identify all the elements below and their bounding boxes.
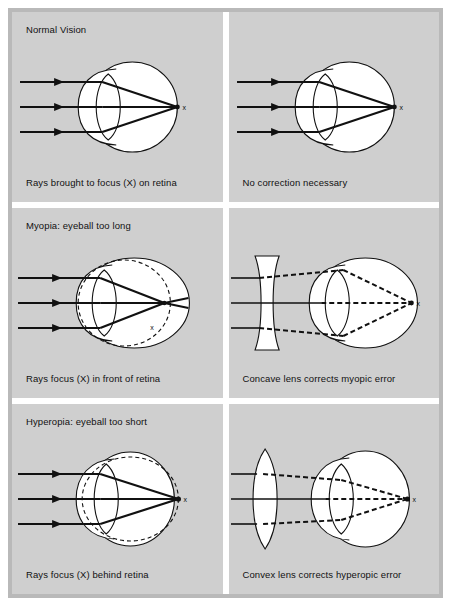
- panel-caption-normal-vision: Rays brought to focus (X) on retina: [26, 177, 177, 188]
- focal-point: [391, 105, 396, 110]
- normal-vision-diagram: x: [12, 12, 223, 202]
- panel-caption-convex-correction: Convex lens corrects hyperopic error: [243, 569, 402, 580]
- focus-label: x: [412, 496, 416, 503]
- panel-caption-myopia: Rays focus (X) in front of retina: [26, 373, 160, 384]
- focal-point: [404, 496, 409, 501]
- focus-label: x: [183, 496, 187, 503]
- panel-myopia: x Myopia: eyeball too long Rays focus (X…: [12, 208, 223, 398]
- hyperopia-diagram: x: [12, 404, 223, 594]
- focus-label: x: [416, 300, 420, 307]
- ray-arrowheads: [54, 78, 64, 136]
- convex-correction-diagram: x: [229, 404, 440, 594]
- panel-grid: x Normal Vision Rays brought to focus (X…: [12, 12, 439, 594]
- focal-point: [175, 105, 180, 110]
- ray-arrowheads: [52, 274, 62, 332]
- panel-title-myopia: Myopia: eyeball too long: [26, 220, 131, 231]
- panel-concave-correction: x Concave lens corrects myopic error: [229, 208, 440, 398]
- incident-rays: [231, 474, 325, 524]
- panel-title-hyperopia: Hyperopia: eyeball too short: [26, 416, 147, 427]
- incident-rays: [231, 278, 321, 328]
- ray-arrowheads: [271, 78, 281, 136]
- focal-point: [162, 301, 166, 305]
- focus-label: x: [150, 324, 154, 331]
- no-correction-diagram: x: [229, 12, 440, 202]
- focal-point: [176, 496, 181, 501]
- focus-label: x: [182, 104, 186, 111]
- ray-arrowheads: [52, 470, 62, 528]
- focal-point: [409, 301, 414, 306]
- myopia-diagram: x: [12, 208, 223, 398]
- panel-caption-no-correction: No correction necessary: [243, 177, 348, 188]
- panel-normal-vision: x Normal Vision Rays brought to focus (X…: [12, 12, 223, 202]
- panel-caption-hyperopia: Rays focus (X) behind retina: [26, 569, 149, 580]
- panel-convex-correction: x Convex lens corrects hyperopic error: [229, 404, 440, 594]
- panel-hyperopia: x Hyperopia: eyeball too short Rays focu…: [12, 404, 223, 594]
- panel-no-correction: x No correction necessary: [229, 12, 440, 202]
- panel-caption-concave-correction: Concave lens corrects myopic error: [243, 373, 396, 384]
- refractive-error-figure: x Normal Vision Rays brought to focus (X…: [0, 0, 451, 606]
- focus-label: x: [399, 104, 403, 111]
- panel-title-normal-vision: Normal Vision: [26, 24, 86, 35]
- concave-correction-diagram: x: [229, 208, 440, 398]
